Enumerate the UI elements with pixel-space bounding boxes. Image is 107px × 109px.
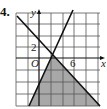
y-axis-label: y: [30, 6, 36, 18]
shaded-region: [29, 55, 100, 106]
y-tick-2: 2: [31, 41, 37, 53]
x-tick-6: 6: [70, 57, 76, 69]
x-axis-label: x: [100, 57, 106, 69]
y-axis-arrow-icon: [37, 9, 41, 14]
origin-label: O: [31, 57, 39, 69]
inequality-graph: y x O 2 6: [0, 0, 107, 109]
